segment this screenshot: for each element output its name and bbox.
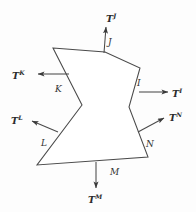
traction-superscript: N	[176, 111, 182, 118]
traction-label-i: TI	[172, 88, 182, 99]
traction-diagram-figure: J I N M L K TJ TI TN TM TL TK	[0, 0, 196, 212]
edge-label-m: M	[110, 168, 119, 177]
traction-label-n: TN	[169, 112, 182, 123]
traction-label-l: TL	[11, 115, 23, 126]
traction-label-k: TK	[12, 70, 25, 81]
edge-label-i: I	[137, 79, 141, 88]
traction-superscript: I	[179, 87, 182, 94]
edge-label-j: J	[108, 38, 112, 47]
traction-label-m: TM	[88, 194, 102, 205]
arrow-t-j	[104, 27, 106, 53]
arrow-t-n	[138, 118, 164, 132]
polygon-body	[37, 48, 148, 165]
traction-superscript: L	[18, 114, 22, 121]
edge-label-n: N	[146, 140, 154, 149]
edge-label-l: L	[41, 139, 47, 148]
edge-label-k: K	[55, 85, 62, 94]
diagram-canvas	[0, 0, 196, 212]
traction-superscript: K	[19, 69, 24, 76]
traction-label-j: TJ	[106, 13, 116, 24]
arrow-t-l	[32, 121, 58, 132]
traction-superscript: M	[95, 193, 102, 200]
traction-superscript: J	[113, 12, 116, 19]
